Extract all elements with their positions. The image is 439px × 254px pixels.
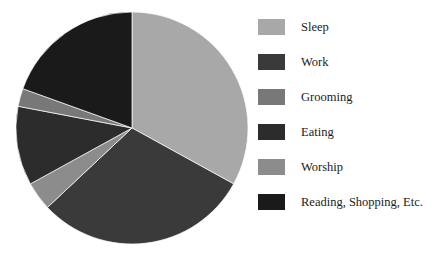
- pie-slice-group: [16, 12, 248, 244]
- legend-swatch-icon: [258, 159, 285, 175]
- pie-chart-svg: [16, 12, 248, 244]
- legend-item-label: Worship: [301, 159, 343, 175]
- legend-item-label: Eating: [301, 124, 334, 140]
- legend-item-label: Sleep: [301, 19, 329, 35]
- legend-item[interactable]: Reading, Shopping, Etc.: [258, 193, 423, 210]
- legend-swatch-icon: [258, 124, 285, 140]
- legend-item-label: Grooming: [301, 89, 352, 105]
- legend-swatch-icon: [258, 19, 285, 35]
- legend-swatch-icon: [258, 54, 285, 70]
- pie-chart-plot-area: [16, 12, 248, 244]
- legend-swatch-icon: [258, 89, 285, 105]
- pie-chart-figure: SleepWorkGroomingEatingWorshipReading, S…: [0, 0, 439, 254]
- legend-item-label: Work: [301, 54, 328, 70]
- legend-item[interactable]: Worship: [258, 158, 343, 175]
- legend-item-label: Reading, Shopping, Etc.: [301, 194, 423, 210]
- legend-item[interactable]: Sleep: [258, 18, 329, 35]
- legend-item[interactable]: Work: [258, 53, 328, 70]
- legend-item[interactable]: Eating: [258, 123, 334, 140]
- chart-legend: SleepWorkGroomingEatingWorshipReading, S…: [258, 12, 436, 244]
- legend-swatch-icon: [258, 194, 285, 210]
- legend-item[interactable]: Grooming: [258, 88, 352, 105]
